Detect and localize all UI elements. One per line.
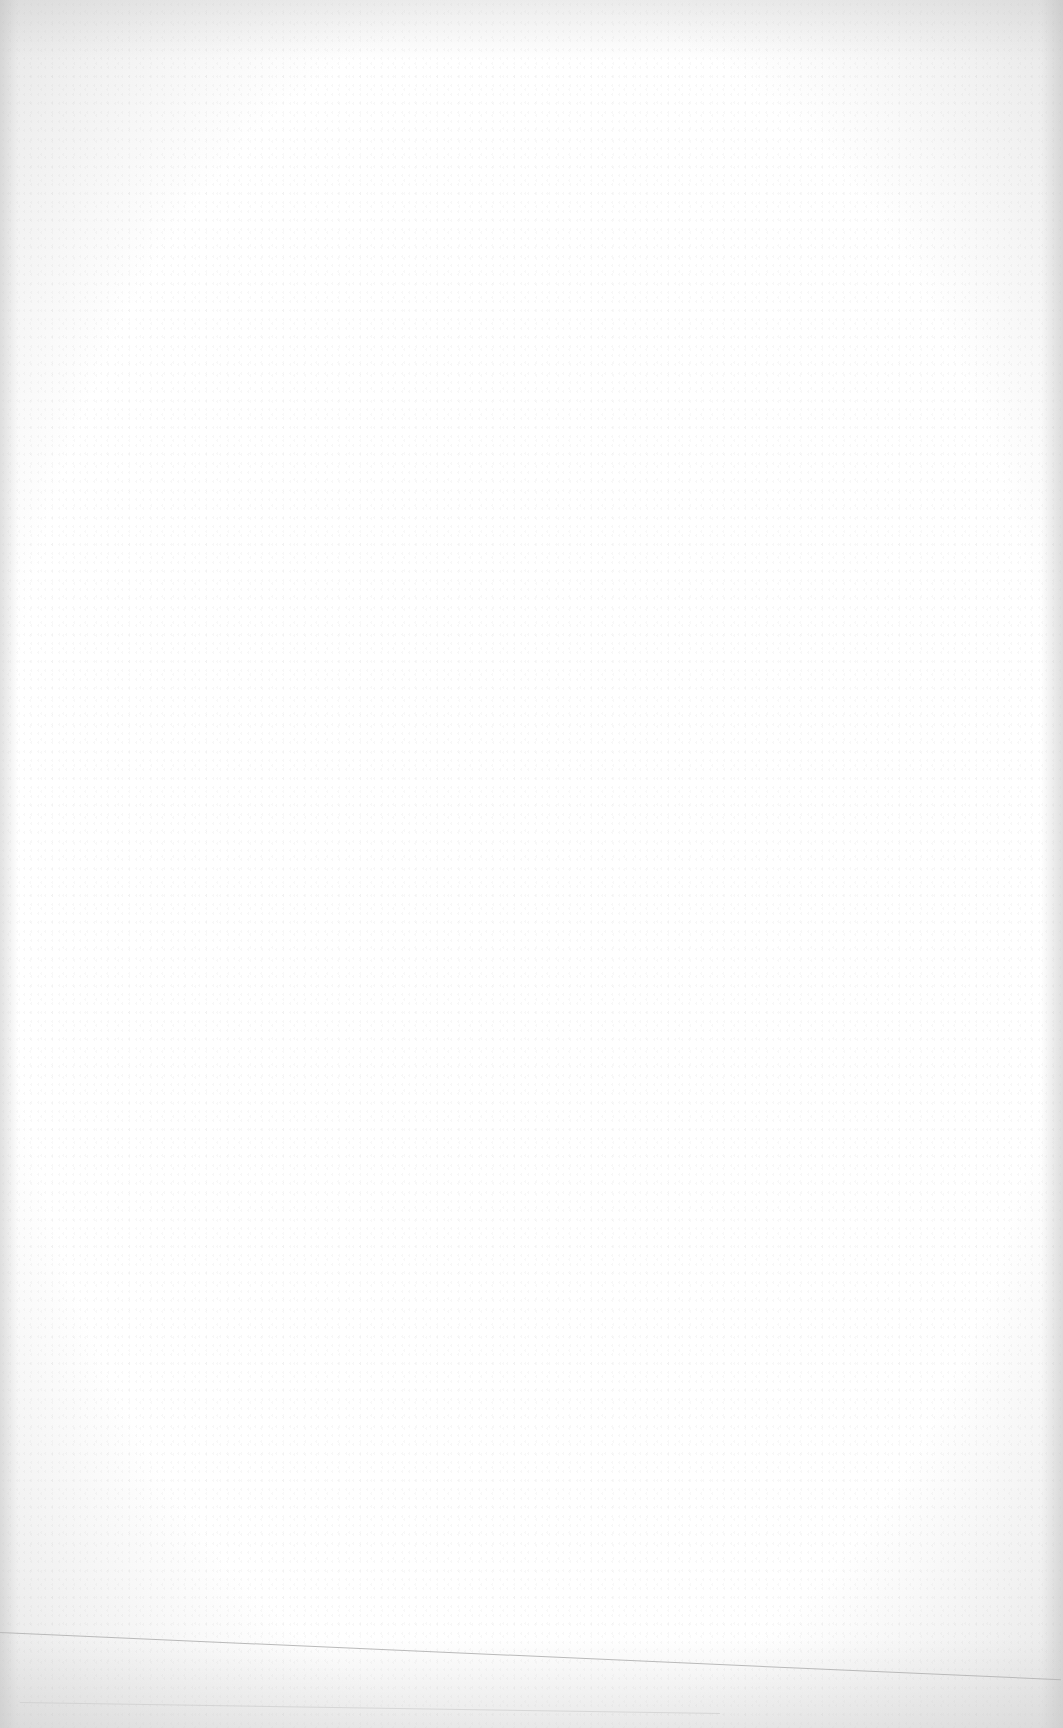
page-edge-shadow-left: [0, 0, 18, 1728]
page-edge-shadow-bottom: [0, 1638, 1063, 1728]
page-edge-shadow-right: [1041, 0, 1063, 1728]
paper-texture: [0, 0, 1063, 1728]
page-edge-shadow-top: [0, 0, 1063, 60]
blank-page: [0, 0, 1063, 1728]
